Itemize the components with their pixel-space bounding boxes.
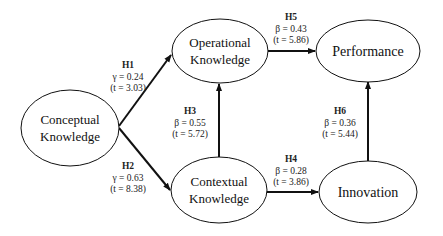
label-h1-coef: γ = 0.24 — [112, 72, 144, 82]
label-h6-coef: β = 0.36 — [324, 118, 356, 128]
node-performance: Performance — [316, 20, 420, 82]
label-h3-t: (t = 5.72) — [172, 129, 208, 140]
label-h3-coef: β = 0.55 — [174, 118, 206, 128]
label-h2-id: H2 — [122, 161, 134, 171]
label-h2-t: (t = 8.38) — [110, 184, 146, 195]
label-h5: H5 β = 0.43 (t = 5.86) — [273, 12, 309, 46]
node-innovation: Innovation — [319, 161, 417, 223]
label-h5-coef: β = 0.43 — [275, 24, 307, 34]
node-innovation-label: Innovation — [338, 185, 399, 200]
label-h1-id: H1 — [122, 60, 134, 70]
label-h6: H6 β = 0.36 (t = 5.44) — [322, 106, 358, 140]
node-performance-label: Performance — [332, 44, 404, 59]
node-conceptual-knowledge: Conceptual Knowledge — [21, 90, 119, 166]
label-h4-coef: β = 0.28 — [275, 166, 307, 176]
label-h3: H3 β = 0.55 (t = 5.72) — [172, 106, 208, 140]
label-h4: H4 β = 0.28 (t = 3.86) — [273, 154, 309, 188]
node-operational-knowledge: Operational Knowledge — [172, 19, 268, 83]
node-contextual-line1: Contextual — [190, 174, 247, 189]
label-h4-t: (t = 3.86) — [273, 177, 309, 188]
label-h2-coef: γ = 0.63 — [112, 173, 144, 183]
node-contextual-knowledge: Contextual Knowledge — [171, 157, 267, 223]
label-h2: H2 γ = 0.63 (t = 8.38) — [110, 161, 146, 195]
label-h4-id: H4 — [285, 154, 297, 164]
node-contextual-line2: Knowledge — [189, 191, 249, 206]
node-operational-line1: Operational — [189, 35, 251, 50]
node-operational-line2: Knowledge — [190, 52, 250, 67]
label-h6-t: (t = 5.44) — [322, 129, 358, 140]
label-h5-t: (t = 5.86) — [273, 35, 309, 46]
structural-model-diagram: Conceptual Knowledge Operational Knowled… — [0, 0, 443, 236]
node-conceptual-line2: Knowledge — [40, 129, 100, 144]
node-conceptual-line1: Conceptual — [40, 112, 100, 127]
label-h1: H1 γ = 0.24 (t = 3.03) — [110, 60, 146, 94]
label-h1-t: (t = 3.03) — [110, 83, 146, 94]
label-h5-id: H5 — [285, 12, 297, 22]
label-h6-id: H6 — [334, 106, 346, 116]
label-h3-id: H3 — [184, 106, 196, 116]
